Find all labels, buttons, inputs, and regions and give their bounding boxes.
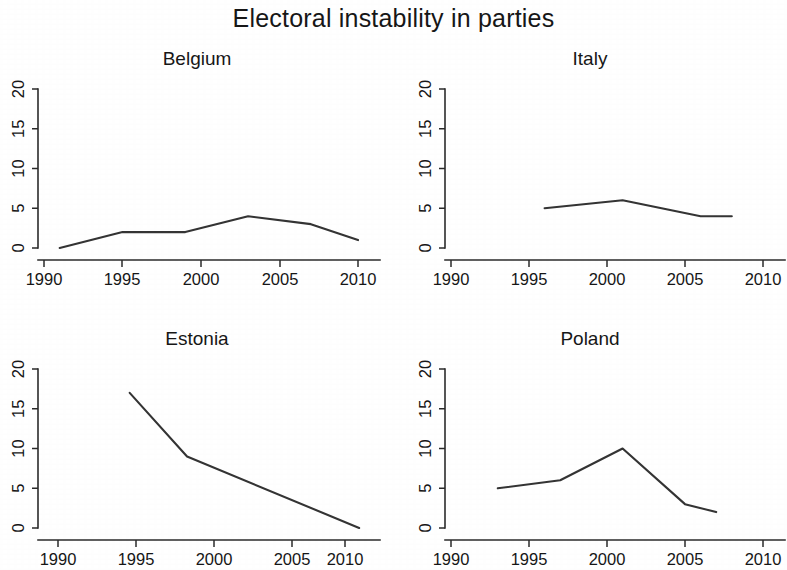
x-tick-label-2005: 2005: [667, 270, 704, 288]
y-tick-label-10: 10: [416, 159, 434, 177]
x-tick-label-2010: 2010: [327, 550, 364, 568]
y-tick-label-20: 20: [9, 80, 27, 98]
x-tick-label-2000: 2000: [196, 550, 233, 568]
x-axis-italy: 1990 1995 2000 2005 2010: [433, 260, 785, 288]
y-tick-label-5: 5: [416, 204, 434, 213]
plot-estonia: 20 15 10 5 0 1990 1995 2000 2005 2010: [0, 328, 394, 570]
y-tick-label-10: 10: [9, 439, 27, 457]
y-tick-label-5: 5: [9, 484, 27, 493]
x-tick-label-2010: 2010: [745, 550, 782, 568]
series-line-italy: [545, 200, 732, 216]
panel-estonia: Estonia 20 15 10 5 0: [0, 328, 394, 570]
series-line-estonia: [130, 393, 359, 528]
panel-poland: Poland 20 15 10 5 0: [393, 328, 787, 570]
x-tick-label-1995: 1995: [511, 550, 548, 568]
y-axis-belgium: 20 15 10 5 0: [9, 80, 38, 253]
x-tick-label-1990: 1990: [433, 270, 470, 288]
y-tick-label-10: 10: [9, 159, 27, 177]
x-axis-estonia: 1990 1995 2000 2005 2010: [38, 540, 380, 568]
x-tick-label-1990: 1990: [433, 550, 470, 568]
plot-italy: 20 15 10 5 0 1990 1995 2000 2005 2010: [393, 48, 787, 288]
x-tick-label-2005: 2005: [262, 270, 299, 288]
y-axis-estonia: 20 15 10 5 0: [9, 360, 38, 533]
plot-poland: 20 15 10 5 0 1990 1995 2000 2005 2010: [393, 328, 787, 570]
x-tick-label-2000: 2000: [589, 270, 626, 288]
y-tick-label-0: 0: [416, 243, 434, 252]
x-tick-label-2000: 2000: [183, 270, 220, 288]
y-axis-poland: 20 15 10 5 0: [416, 360, 445, 533]
x-tick-label-2005: 2005: [274, 550, 311, 568]
y-tick-label-20: 20: [9, 360, 27, 378]
x-tick-label-2010: 2010: [745, 270, 782, 288]
x-tick-label-1995: 1995: [118, 550, 155, 568]
panel-italy: Italy 20 15 10 5 0: [393, 48, 787, 288]
series-line-poland: [498, 449, 716, 513]
x-tick-label-1995: 1995: [104, 270, 141, 288]
series-line-belgium: [60, 216, 358, 248]
y-tick-label-0: 0: [416, 523, 434, 532]
x-tick-label-1990: 1990: [26, 270, 63, 288]
y-tick-label-15: 15: [416, 120, 434, 138]
x-axis-poland: 1990 1995 2000 2005 2010: [433, 540, 785, 568]
y-tick-label-20: 20: [416, 360, 434, 378]
x-tick-label-2005: 2005: [667, 550, 704, 568]
y-tick-label-10: 10: [416, 439, 434, 457]
plot-belgium: 20 15 10 5 0 1990 1995 2000 2005 2010: [0, 48, 394, 288]
y-tick-label-5: 5: [416, 484, 434, 493]
chart-title: Electoral instability in parties: [0, 4, 787, 33]
panel-title-poland: Poland: [393, 328, 787, 350]
x-tick-label-1990: 1990: [40, 550, 77, 568]
chart-figure: Electoral instability in parties Belgium…: [0, 0, 787, 570]
y-axis-italy: 20 15 10 5 0: [416, 80, 445, 253]
y-tick-label-0: 0: [9, 523, 27, 532]
x-axis-belgium: 1990 1995 2000 2005 2010: [26, 260, 380, 288]
y-tick-label-0: 0: [9, 243, 27, 252]
y-tick-label-5: 5: [9, 204, 27, 213]
x-tick-label-2000: 2000: [589, 550, 626, 568]
x-tick-label-1995: 1995: [511, 270, 548, 288]
y-tick-label-20: 20: [416, 80, 434, 98]
panel-title-estonia: Estonia: [0, 328, 394, 350]
panel-belgium: Belgium 20 15 10 5 0: [0, 48, 394, 288]
y-tick-label-15: 15: [9, 120, 27, 138]
panel-title-belgium: Belgium: [0, 48, 394, 70]
panel-title-italy: Italy: [393, 48, 787, 70]
y-tick-label-15: 15: [9, 400, 27, 418]
x-tick-label-2010: 2010: [340, 270, 377, 288]
y-tick-label-15: 15: [416, 400, 434, 418]
